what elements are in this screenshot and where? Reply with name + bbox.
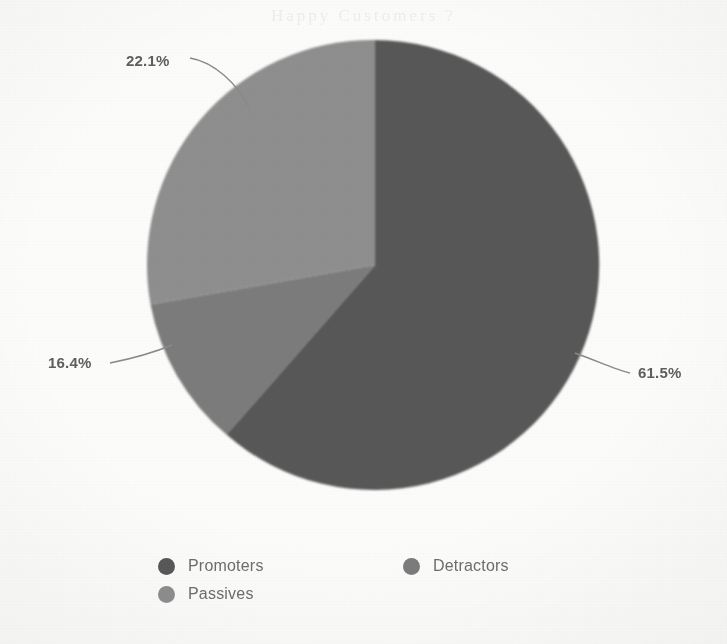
legend-item-detractors[interactable]: Detractors	[403, 557, 509, 575]
leader-line-detractors	[110, 345, 172, 363]
legend-label-promoters: Promoters	[188, 557, 264, 575]
pie-chart: 22.1% 16.4% 61.5% Promoters Detractors P…	[0, 0, 727, 644]
pie-value-label-detractors: 16.4%	[48, 354, 92, 371]
pie-chart-page: Happy Customers ?	[0, 0, 727, 644]
legend-label-passives: Passives	[188, 585, 254, 603]
legend-swatch-circle-icon	[403, 558, 420, 575]
legend-swatch-circle-icon	[158, 558, 175, 575]
legend-row: Promoters Detractors	[158, 552, 588, 580]
legend-item-promoters[interactable]: Promoters	[158, 557, 403, 575]
legend-item-passives[interactable]: Passives	[158, 585, 403, 603]
legend-label-detractors: Detractors	[433, 557, 509, 575]
legend-swatch-circle-icon	[158, 586, 175, 603]
pie-value-label-promoters: 61.5%	[638, 364, 682, 381]
chart-legend: Promoters Detractors Passives	[158, 552, 588, 608]
pie-chart-svg	[0, 0, 727, 644]
leader-line-promoters	[575, 353, 630, 373]
pie-value-label-passives: 22.1%	[126, 52, 170, 69]
legend-row: Passives	[158, 580, 588, 608]
pie-slice-passives[interactable]	[147, 40, 375, 305]
